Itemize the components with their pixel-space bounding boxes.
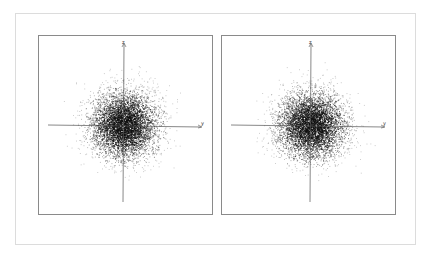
y-axis-label-left: y — [201, 120, 204, 126]
scatter-panel-left: z y — [38, 35, 213, 215]
z-axis-label-left: z — [122, 39, 125, 45]
scatter-panel-right: z y — [221, 35, 396, 215]
scatter-plot-left — [39, 36, 212, 214]
scatter-plot-right — [222, 36, 395, 214]
z-axis-label-right: z — [309, 39, 312, 45]
y-axis-label-right: y — [383, 120, 386, 126]
